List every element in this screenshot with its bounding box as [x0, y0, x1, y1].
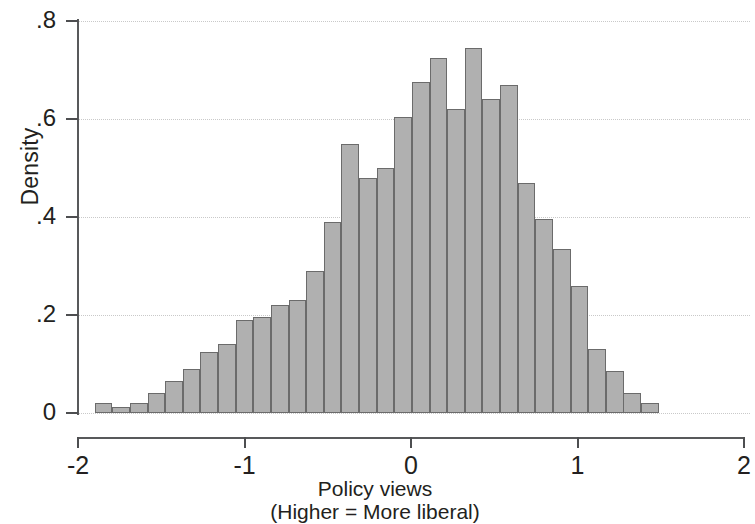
histogram-bar	[165, 381, 183, 413]
gridline	[78, 413, 750, 415]
histogram-bar	[535, 219, 553, 413]
histogram-bar	[571, 286, 589, 413]
y-axis-tick	[66, 20, 78, 22]
y-axis-tick-label: .8	[0, 8, 56, 32]
x-axis-tick-label: 0	[381, 452, 441, 478]
histogram-bar	[359, 178, 377, 413]
histogram-bar	[430, 58, 448, 413]
histogram-bar	[394, 117, 412, 413]
y-axis-tick	[66, 118, 78, 120]
x-axis-subtitle: (Higher = More liberal)	[0, 500, 750, 523]
histogram-bar	[95, 403, 113, 413]
histogram-bar	[641, 403, 659, 413]
x-axis-tick-label: 2	[714, 452, 755, 478]
histogram-bar	[253, 317, 271, 413]
y-axis-tick-label: 0	[0, 400, 56, 424]
x-axis-tick	[244, 437, 246, 448]
y-axis-tick	[66, 216, 78, 218]
y-axis-tick	[66, 412, 78, 414]
histogram-bar	[447, 109, 465, 413]
histogram-bar	[518, 183, 536, 413]
histogram-bar	[482, 99, 500, 413]
histogram-bar	[183, 369, 201, 413]
plot-area	[78, 21, 744, 413]
histogram-bar	[148, 393, 166, 413]
x-axis-tick	[743, 437, 745, 448]
x-axis-tick-label: 1	[548, 452, 608, 478]
histogram-bar	[324, 222, 342, 413]
histogram-bar	[465, 48, 483, 413]
histogram-bar	[412, 82, 430, 413]
x-axis-tick	[577, 437, 579, 448]
histogram-bar	[553, 249, 571, 413]
histogram-bar	[130, 403, 148, 413]
histogram-bar	[200, 352, 218, 413]
histogram-bar	[112, 407, 130, 413]
histogram-bar	[377, 168, 395, 413]
histogram-bar	[588, 349, 606, 413]
y-axis-tick-label: .2	[0, 302, 56, 326]
x-axis-tick	[410, 437, 412, 448]
histogram-bar	[341, 144, 359, 414]
y-axis-tick	[66, 314, 78, 316]
y-axis-title: Density	[19, 57, 42, 277]
histogram-bar	[236, 320, 254, 413]
histogram-bar	[218, 344, 236, 413]
histogram-bar	[289, 300, 307, 413]
histogram-bar	[606, 371, 624, 413]
histogram-bar	[306, 271, 324, 413]
x-axis-tick	[77, 437, 79, 448]
x-axis-title: Policy views	[0, 477, 750, 500]
histogram-bar	[271, 305, 289, 413]
histogram-bar	[500, 85, 518, 413]
histogram-bar	[623, 393, 641, 413]
x-axis-tick-label: -1	[215, 452, 275, 478]
x-axis-tick-label: -2	[48, 452, 108, 478]
